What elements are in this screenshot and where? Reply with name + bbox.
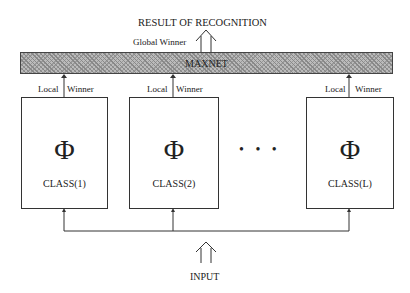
winner-label-2: Winner (176, 85, 203, 94)
arrowhead-2 (170, 74, 176, 78)
class-box-2: Φ CLASS(2) (129, 97, 219, 209)
phi-symbol: Φ (130, 136, 218, 164)
result-title: RESULT OF RECOGNITION (138, 18, 267, 29)
local-label-3: Local (325, 85, 346, 94)
winner-label-1: Winner (67, 85, 94, 94)
class-label: CLASS(2) (130, 178, 218, 189)
local-label-2: Local (147, 85, 168, 94)
phi-symbol: Φ (307, 136, 393, 164)
arrowhead-1 (61, 74, 67, 78)
class-box-1: Φ CLASS(1) (21, 97, 108, 209)
arrowhead-3 (346, 74, 352, 78)
local-label-1: Local (38, 85, 59, 94)
class-box-3: Φ CLASS(L) (306, 97, 394, 209)
phi-symbol: Φ (22, 136, 107, 164)
input-label: INPUT (190, 272, 219, 282)
global-winner-label: Global Winner (133, 38, 186, 47)
maxnet-label: MAXNET (185, 58, 228, 69)
maxnet-block: MAXNET (20, 52, 393, 74)
output-arrow-head (196, 30, 216, 41)
winner-label-3: Winner (355, 85, 382, 94)
class-label: CLASS(1) (22, 178, 107, 189)
input-arrow-head (196, 242, 216, 252)
ellipsis: • • • (239, 143, 281, 157)
class-label: CLASS(L) (307, 178, 393, 189)
